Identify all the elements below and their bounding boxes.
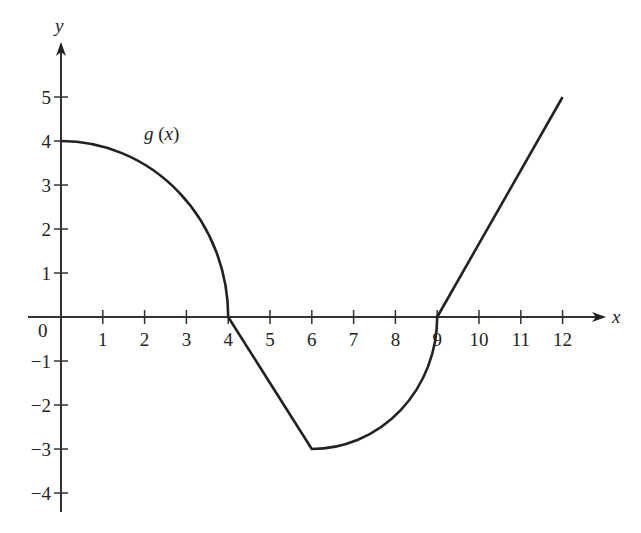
x-axis-label: x <box>611 306 621 327</box>
y-tick-label: 1 <box>42 263 52 284</box>
x-tick-label: 8 <box>391 329 401 350</box>
y-ticks: 54321−1−2−3−4 <box>31 87 68 504</box>
y-tick-label: 5 <box>42 87 52 108</box>
x-tick-label: 1 <box>98 329 108 350</box>
x-tick-label: 5 <box>265 329 275 350</box>
x-tick-label: 4 <box>223 329 233 350</box>
x-tick-label: 6 <box>307 329 317 350</box>
y-tick-label: 3 <box>42 175 52 196</box>
y-axis-label: y <box>53 15 64 36</box>
y-tick-label: −2 <box>31 395 51 416</box>
y-tick-label: 2 <box>42 219 52 240</box>
x-tick-label: 11 <box>512 329 530 350</box>
origin-label: 0 <box>38 320 48 341</box>
y-tick-label: −1 <box>31 351 51 372</box>
x-tick-label: 3 <box>182 329 192 350</box>
y-tick-label: −4 <box>31 483 52 504</box>
y-tick-label: 4 <box>42 131 52 152</box>
x-tick-label: 10 <box>470 329 489 350</box>
x-tick-label: 12 <box>553 329 572 350</box>
g-curve <box>61 97 563 449</box>
x-tick-label: 2 <box>140 329 150 350</box>
y-tick-label: −3 <box>31 439 51 460</box>
function-graph: x y 0 123456789101112 54321−1−2−3−4 g (x… <box>0 0 641 533</box>
curve-label: g (x) <box>144 123 179 145</box>
x-tick-label: 7 <box>349 329 359 350</box>
